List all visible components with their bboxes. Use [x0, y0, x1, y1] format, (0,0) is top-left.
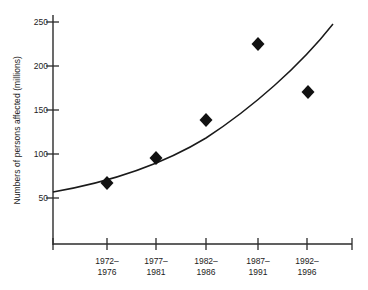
x-tick-label-line2: 1986	[178, 267, 234, 278]
x-tick-label-line2: 1991	[230, 267, 286, 278]
x-tick-label-line2: 1976	[79, 267, 135, 278]
x-tick-label-1972-1976: 1972– 1976	[79, 256, 135, 277]
x-tick-label-line1: 1987–	[230, 256, 286, 267]
axes-group	[53, 15, 352, 245]
x-tick-label-1982-1986: 1982– 1986	[178, 256, 234, 277]
x-tick-label-1987-1991: 1987– 1991	[230, 256, 286, 277]
data-point-1982-1986	[200, 113, 213, 127]
trend-curve	[53, 24, 333, 192]
data-point-1992-1996	[302, 85, 315, 99]
x-tick-label-line2: 1981	[128, 267, 184, 278]
x-tick-label-line1: 1982–	[178, 256, 234, 267]
chart-container: Numbers of persons affected (millions) 2…	[0, 0, 368, 290]
plot-area	[0, 0, 368, 290]
x-tick-label-1992-1996: 1992– 1996	[279, 256, 335, 277]
data-point-1987-1991	[252, 37, 265, 51]
data-markers	[101, 37, 315, 190]
x-tick-label-line2: 1996	[279, 267, 335, 278]
x-tick-label-line1: 1972–	[79, 256, 135, 267]
x-tick-label-line1: 1992–	[279, 256, 335, 267]
x-tick-label-line1: 1977–	[128, 256, 184, 267]
data-point-1977-1981	[150, 151, 163, 165]
x-tick-label-1977-1981: 1977– 1981	[128, 256, 184, 277]
